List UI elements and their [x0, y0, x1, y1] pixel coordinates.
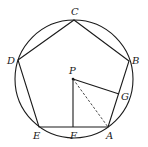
segment-pa-dashed [73, 79, 108, 127]
label-b: B [131, 55, 139, 66]
label-e: E [32, 130, 41, 141]
segment-pg [73, 79, 119, 94]
pentagon-diagram: C B D P G E F A [0, 0, 148, 147]
label-g: G [121, 91, 129, 102]
label-p: P [68, 65, 76, 76]
label-a: A [105, 130, 113, 141]
label-c: C [71, 6, 79, 17]
label-f: F [69, 130, 78, 141]
center-point-p [72, 78, 75, 81]
label-d: D [6, 55, 15, 66]
